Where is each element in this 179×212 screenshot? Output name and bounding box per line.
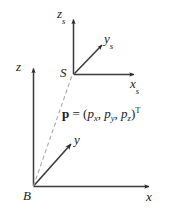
- axis-label-z: z: [16, 60, 21, 73]
- equation-component-y: p: [104, 106, 111, 121]
- vector-p-dashed-line: [34, 74, 73, 186]
- origin-label-b: B: [23, 189, 31, 202]
- coordinate-frames-figure: zs ys xs S z y x B p = (px, py, pz)T: [0, 0, 179, 212]
- axis-label-ys: ys: [104, 32, 113, 48]
- equation-equals: =: [72, 106, 79, 121]
- axis-line-ys: [75, 45, 103, 74]
- axis-label-xs: xs: [130, 77, 139, 93]
- vector-equation: p = (px, py, pz)T: [62, 107, 140, 120]
- axis-line-y: [34, 144, 71, 186]
- equation-component-y-sub: y: [111, 113, 115, 123]
- equation-component-x: p: [87, 106, 94, 121]
- axis-label-zs: zs: [57, 7, 66, 23]
- origin-label-s: S: [60, 66, 67, 79]
- axis-label-x: x: [146, 190, 152, 203]
- equation-component-x-sub: x: [94, 113, 98, 123]
- equation-transpose: T: [135, 105, 140, 115]
- equation-component-z: p: [121, 106, 128, 121]
- equation-component-z-sub: z: [128, 113, 131, 123]
- axis-label-y: y: [74, 133, 80, 146]
